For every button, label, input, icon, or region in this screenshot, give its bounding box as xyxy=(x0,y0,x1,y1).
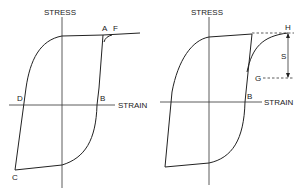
left-lower-branch xyxy=(15,88,99,170)
right-strain-label: STRAIN xyxy=(264,98,294,107)
left-stress-label: STRESS xyxy=(44,8,76,17)
s-arrow-down-icon xyxy=(286,73,290,78)
point-a-label: A xyxy=(102,24,108,33)
left-reload-curve xyxy=(104,35,112,42)
left-descending-branch xyxy=(99,35,103,88)
left-strain-label: STRAIN xyxy=(118,101,148,110)
right-point-b-label: B xyxy=(247,92,252,101)
right-stress-label: STRESS xyxy=(191,8,223,17)
s-arrow-up-icon xyxy=(286,33,290,38)
point-h-label: H xyxy=(285,23,291,32)
point-g-label: G xyxy=(255,74,261,83)
left-diagram: STRESS STRAIN A F B D C xyxy=(9,8,148,188)
right-upper-branch xyxy=(172,34,252,92)
right-diagram: STRESS STRAIN H S G B xyxy=(160,8,294,185)
s-label: S xyxy=(281,52,286,61)
hysteresis-diagrams: STRESS STRAIN A F B D C STRESS STRAIN xyxy=(0,0,302,191)
point-c-label: C xyxy=(12,173,18,182)
point-f-label: F xyxy=(113,24,118,33)
right-left-branch xyxy=(165,92,172,167)
right-lower-branch xyxy=(165,92,246,167)
left-upper-branch xyxy=(26,33,140,88)
point-d-label: D xyxy=(17,94,23,103)
left-point-b-label: B xyxy=(100,94,105,103)
